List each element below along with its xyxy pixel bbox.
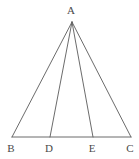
segment-ae	[72, 22, 93, 137]
segment-ac	[72, 22, 131, 137]
segment-ab	[12, 22, 72, 137]
triangle-diagram-svg	[0, 0, 139, 159]
vertex-label-d: D	[45, 143, 53, 154]
vertex-label-e: E	[89, 143, 96, 154]
vertex-label-b: B	[7, 143, 14, 154]
segment-ad	[50, 22, 72, 137]
vertex-label-a: A	[67, 5, 75, 16]
vertex-label-c: C	[126, 143, 133, 154]
triangle-edges	[12, 22, 131, 137]
triangle-cevians	[50, 22, 93, 137]
geometry-figure: A B D E C	[0, 0, 139, 159]
